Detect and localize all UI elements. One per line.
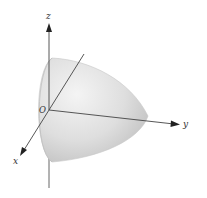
y-axis-arrow-icon <box>171 121 181 128</box>
paraboloid-surface <box>39 58 149 162</box>
origin-label: O <box>39 105 46 115</box>
x-axis-arrow-icon <box>20 147 27 156</box>
z-axis-arrow-icon <box>46 23 52 32</box>
y-axis-label: y <box>182 119 189 129</box>
diagram-canvas: z y x O <box>0 0 207 198</box>
z-axis-label: z <box>45 11 51 21</box>
paraboloid-diagram: z y x O <box>0 0 207 198</box>
x-axis-label: x <box>13 156 18 166</box>
